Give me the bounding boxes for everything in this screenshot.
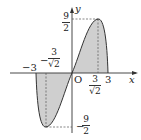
- pos-crit-numerator: 3: [89, 75, 101, 84]
- y-tick-min: 9 2: [82, 115, 90, 136]
- origin-label: O: [74, 75, 82, 85]
- x-tick-pos-crit: 3 √2: [89, 75, 101, 96]
- x-axis-label: x: [129, 75, 135, 85]
- y-tick-max: 9 2: [62, 12, 70, 33]
- neg-crit-numerator: 3: [48, 48, 60, 57]
- pos-crit-denominator: √2: [89, 87, 101, 96]
- x-tick-neg3: −3: [22, 63, 37, 73]
- x-tick-pos3: 3: [105, 75, 111, 85]
- y-axis-arrow-icon: [70, 7, 74, 13]
- min-numerator: 9: [82, 115, 90, 124]
- max-numerator: 9: [62, 12, 70, 21]
- max-denominator: 2: [62, 24, 70, 33]
- min-denominator: 2: [82, 127, 90, 136]
- neg-crit-denominator: √2: [48, 60, 60, 69]
- y-axis-label: y: [75, 4, 81, 14]
- x-tick-neg-crit: 3 √2: [48, 48, 60, 69]
